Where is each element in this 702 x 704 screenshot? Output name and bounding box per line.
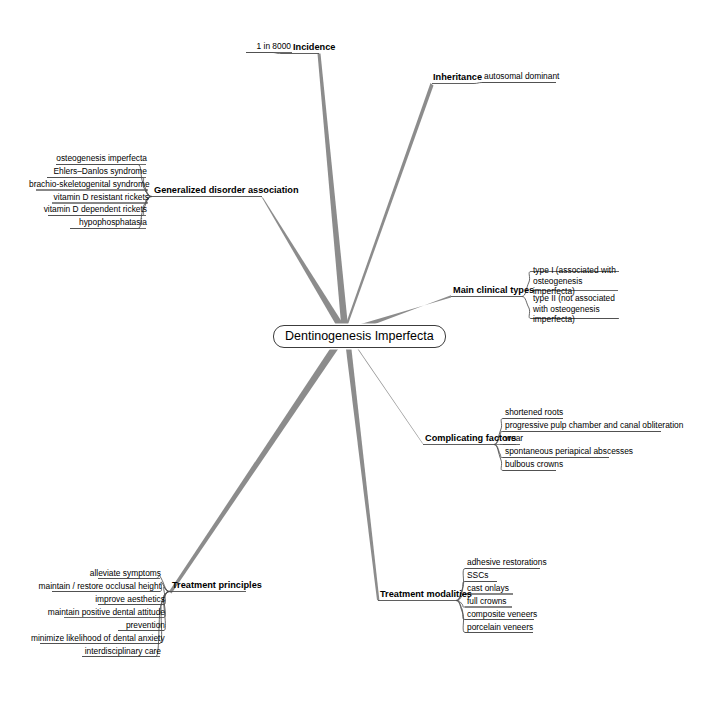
- branch-label-treatment-modalities[interactable]: Treatment modalities: [378, 589, 474, 600]
- leaf-complicating-4[interactable]: bulbous crowns: [502, 459, 566, 471]
- leaf-modalities-3[interactable]: full crowns: [464, 596, 510, 608]
- leaf-incidence-0[interactable]: 1 in 8000: [196, 41, 294, 53]
- branch-wire-modalities: [344, 333, 380, 601]
- leaf-modalities-4[interactable]: composite veneers: [464, 609, 540, 621]
- leaf-complicating-0[interactable]: shortened roots: [502, 407, 566, 419]
- leaf-generalized-3[interactable]: vitamin D resistant rickets: [26, 192, 152, 204]
- branch-wire-complicating: [347, 333, 425, 445]
- branch-label-treatment-principles[interactable]: Treatment principles: [170, 580, 264, 591]
- leaf-principles-0[interactable]: alleviate symptoms: [28, 568, 164, 580]
- leaf-generalized-2[interactable]: brachio-skeletogenital syndrome: [26, 179, 152, 191]
- branch-wire-inheritance: [343, 83, 434, 334]
- branch-wire-generalized: [261, 196, 346, 334]
- leaf-inheritance-0[interactable]: autosomal dominant: [481, 71, 562, 83]
- leaf-modalities-5[interactable]: porcelain veneers: [464, 622, 536, 634]
- leaf-clinical-types-1[interactable]: type II (not associated with osteogenesi…: [530, 293, 630, 326]
- leaf-principles-5[interactable]: minimize likelihood of dental anxiety: [28, 633, 164, 645]
- leaf-complicating-2[interactable]: wear: [502, 433, 526, 445]
- leaf-principles-4[interactable]: prevention: [28, 620, 168, 632]
- leaf-wire-inheritance-0: [474, 83, 556, 84]
- branch-wire-principles: [169, 333, 346, 594]
- leaf-principles-1[interactable]: maintain / restore occlusal height: [28, 581, 164, 593]
- mindmap-canvas: Dentinogenesis Imperfecta Incidence 1 in…: [0, 0, 702, 704]
- branch-label-inheritance[interactable]: Inheritance: [431, 72, 484, 83]
- leaf-principles-2[interactable]: improve aesthetics: [28, 594, 168, 606]
- leaf-generalized-4[interactable]: vitamin D dependent rickets: [26, 204, 150, 216]
- leaf-complicating-1[interactable]: progressive pulp chamber and canal oblit…: [502, 420, 686, 432]
- leaf-principles-3[interactable]: maintain positive dental attitude: [28, 607, 168, 619]
- leaf-generalized-1[interactable]: Ehlers–Danlos syndrome: [26, 166, 150, 178]
- root-node[interactable]: Dentinogenesis Imperfecta: [273, 325, 446, 348]
- leaf-wire-incidence-0: [246, 53, 281, 54]
- branch-label-generalized-disorder-association[interactable]: Generalized disorder association: [152, 185, 301, 196]
- branch-label-main-clinical-types[interactable]: Main clinical types: [451, 285, 536, 296]
- branch-wire-incidence: [318, 54, 349, 331]
- leaf-generalized-5[interactable]: hypophosphatasia: [26, 217, 150, 229]
- leaf-complicating-3[interactable]: spontaneous periapical abscesses: [502, 446, 636, 458]
- leaf-modalities-1[interactable]: SSCs: [464, 570, 491, 582]
- leaf-modalities-2[interactable]: cast onlays: [464, 583, 512, 595]
- leaf-principles-6[interactable]: interdisciplinary care: [28, 646, 164, 658]
- leaf-generalized-0[interactable]: osteogenesis imperfecta: [26, 153, 150, 165]
- leaf-modalities-0[interactable]: adhesive restorations: [464, 557, 550, 569]
- branch-label-incidence[interactable]: Incidence: [291, 42, 337, 53]
